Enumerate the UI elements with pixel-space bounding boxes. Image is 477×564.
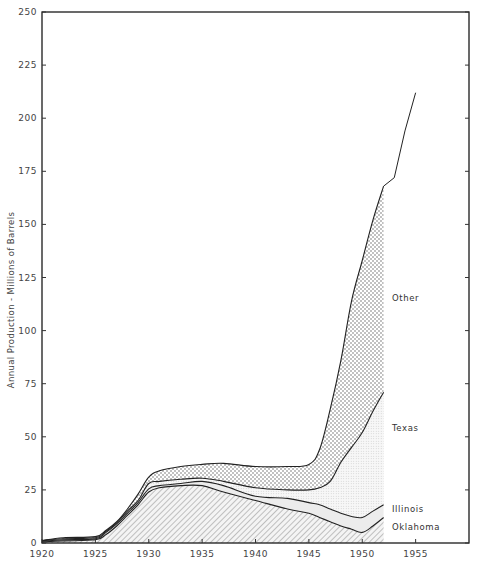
x-tick-label: 1945 xyxy=(296,549,321,559)
x-tick-label: 1930 xyxy=(136,549,161,559)
y-tick-label: 0 xyxy=(31,538,37,548)
series-label-illinois: Illinois xyxy=(392,504,424,514)
y-tick-label: 75 xyxy=(25,379,37,389)
x-tick-label: 1935 xyxy=(190,549,215,559)
oil-production-chart: 0255075100125150175200225250 19201925193… xyxy=(0,0,477,564)
series-label-other: Other xyxy=(392,293,419,303)
plot-frame xyxy=(42,12,469,543)
x-tick-label: 1950 xyxy=(350,549,375,559)
y-tick-label: 200 xyxy=(18,113,37,123)
x-tick-label: 1925 xyxy=(83,549,108,559)
y-tick-label: 150 xyxy=(18,219,37,229)
line-total-extension xyxy=(384,93,416,186)
x-tick-label: 1920 xyxy=(30,549,55,559)
y-tick-label: 225 xyxy=(18,60,37,70)
series-label-oklahoma: Oklahoma xyxy=(392,522,440,532)
y-tick-label: 175 xyxy=(18,166,37,176)
x-tick-label: 1940 xyxy=(243,549,268,559)
y-tick-label: 125 xyxy=(18,273,37,283)
y-axis-title: Annual Production - Millions of Barrels xyxy=(6,212,16,389)
series-label-texas: Texas xyxy=(391,423,419,433)
x-tick-label: 1955 xyxy=(403,549,428,559)
y-tick-label: 250 xyxy=(18,7,37,17)
stacked-areas xyxy=(42,186,384,543)
y-tick-label: 100 xyxy=(18,326,37,336)
y-tick-label: 25 xyxy=(25,485,37,495)
y-tick-label: 50 xyxy=(25,432,37,442)
